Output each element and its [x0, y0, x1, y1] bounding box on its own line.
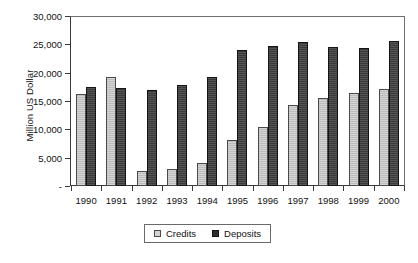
credits-swatch-icon [154, 230, 161, 237]
x-tick-mark [343, 186, 344, 191]
x-tick-label: 1992 [136, 195, 157, 206]
bar-deposits-1992 [147, 90, 157, 186]
bar-credits-1994 [197, 163, 207, 186]
bar-credits-1998 [318, 98, 328, 186]
x-tick-label: 1991 [106, 195, 127, 206]
x-tick-mark [374, 186, 375, 191]
x-tick-label: 1998 [318, 195, 339, 206]
x-tick-label: 1999 [348, 195, 369, 206]
legend-label: Deposits [224, 228, 261, 239]
x-tick-mark [192, 186, 193, 191]
bar-group [313, 17, 343, 186]
bar-deposits-1999 [359, 48, 369, 186]
bar-credits-1997 [288, 105, 298, 186]
y-tick-label: - [59, 181, 62, 192]
legend-item-credits[interactable]: Credits [154, 228, 196, 239]
bar-group [192, 17, 222, 186]
bar-group [222, 17, 252, 186]
bar-credits-1990 [76, 94, 86, 186]
bar-deposits-1990 [86, 87, 96, 186]
bar-deposits-1995 [237, 50, 247, 186]
x-tick-label: 1995 [227, 195, 248, 206]
bar-group [162, 17, 192, 186]
bar-credits-1991 [106, 77, 116, 186]
y-tick-label: 30,000 [33, 11, 62, 22]
bar-group [253, 17, 283, 186]
bar-deposits-1991 [116, 88, 126, 186]
bar-credits-1996 [258, 127, 268, 186]
bar-group [283, 17, 313, 186]
legend-item-deposits[interactable]: Deposits [212, 228, 261, 239]
x-tick-label: 2000 [378, 195, 399, 206]
y-tick-label: 25,000 [33, 39, 62, 50]
x-tick-mark [71, 186, 72, 191]
x-tick-mark [101, 186, 102, 191]
x-tick-mark [404, 186, 405, 191]
bar-chart: Million US Dollar -5,00010,00015,00020,0… [0, 0, 418, 263]
bar-deposits-1993 [177, 85, 187, 186]
x-tick-mark [313, 186, 314, 191]
y-tick-label: 10,000 [33, 124, 62, 135]
bar-credits-1992 [137, 171, 147, 186]
bar-deposits-1994 [207, 77, 217, 186]
bar-deposits-1998 [328, 47, 338, 186]
bar-group [374, 17, 404, 186]
bar-deposits-1996 [268, 46, 278, 186]
x-tick-mark [162, 186, 163, 191]
x-tick-mark [283, 186, 284, 191]
y-tick-label: 5,000 [38, 152, 62, 163]
bar-deposits-2000 [389, 41, 399, 186]
bar-group [101, 17, 131, 186]
deposits-swatch-icon [212, 230, 219, 237]
x-tick-mark [253, 186, 254, 191]
bar-credits-2000 [379, 89, 389, 186]
bar-group [132, 17, 162, 186]
y-axis-ticks: -5,00010,00015,00020,00025,00030,000 [0, 0, 70, 263]
bar-credits-1999 [349, 93, 359, 186]
bar-group [71, 17, 101, 186]
bar-group [343, 17, 373, 186]
x-axis-ticks: 1990199119921993199419951996199719981999… [70, 186, 405, 216]
x-tick-mark [132, 186, 133, 191]
x-tick-label: 1996 [257, 195, 278, 206]
chart-legend: CreditsDeposits [144, 224, 271, 243]
y-tick-label: 20,000 [33, 67, 62, 78]
bar-credits-1995 [227, 140, 237, 186]
x-tick-label: 1994 [197, 195, 218, 206]
bar-deposits-1997 [298, 42, 308, 186]
legend-label: Credits [166, 228, 196, 239]
bar-credits-1993 [167, 169, 177, 186]
y-tick-label: 15,000 [33, 96, 62, 107]
bars-layer [71, 17, 404, 186]
x-tick-label: 1993 [166, 195, 187, 206]
x-tick-label: 1997 [287, 195, 308, 206]
x-tick-mark [222, 186, 223, 191]
x-tick-label: 1990 [76, 195, 97, 206]
